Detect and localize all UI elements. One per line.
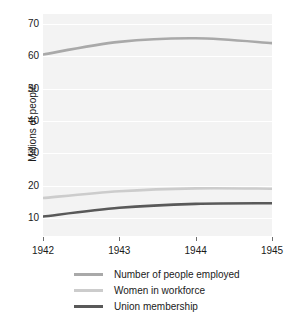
x-tick-mark <box>119 237 120 241</box>
legend-color-swatch <box>74 273 103 276</box>
x-tick-mark <box>43 237 44 241</box>
chart-legend: Number of people employedWomen in workfo… <box>74 266 289 314</box>
x-tick-label: 1943 <box>99 246 139 256</box>
legend-item[interactable]: Number of people employed <box>74 266 289 282</box>
legend-item[interactable]: Union membership <box>74 298 289 314</box>
legend-label: Women in workforce <box>114 285 205 296</box>
legend-color-swatch <box>74 289 103 292</box>
legend-label: Number of people employed <box>114 269 240 280</box>
legend-label: Union membership <box>114 301 198 312</box>
x-tick-label: 1945 <box>252 246 292 256</box>
legend-color-swatch <box>74 305 103 308</box>
x-tick-label: 1944 <box>176 246 216 256</box>
chart-figure: Millions of people 10203040506070 194219… <box>0 0 296 318</box>
legend-item[interactable]: Women in workforce <box>74 282 289 298</box>
x-tick-label: 1942 <box>23 246 63 256</box>
x-tick-mark <box>272 237 273 241</box>
x-tick-mark <box>196 237 197 241</box>
